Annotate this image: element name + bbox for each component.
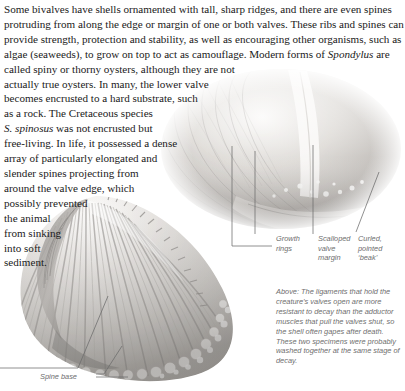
- annotation-curled-beak: Curled, pointed ‘beak’: [358, 234, 402, 263]
- body-line-11: array of particularly elongated and: [4, 151, 259, 166]
- annotation-scalloped-margin: Scalloped valve margin: [318, 234, 358, 263]
- annotation-growth-rings: Growth rings: [276, 234, 316, 253]
- body-line-5: called spiny or thorny oysters, although…: [4, 62, 259, 77]
- body-line-17: into soft: [4, 241, 124, 256]
- article-body: Some bivalves have shells ornamented wit…: [4, 2, 401, 270]
- body-line-13: around the valve edge, which: [4, 181, 184, 196]
- body-line-18: sediment.: [4, 255, 124, 270]
- body-line-14: possibly prevented: [4, 196, 124, 211]
- body-line-6: actually true oysters. In many, the lowe…: [4, 77, 259, 92]
- annotation-spine-base: Spine base: [40, 372, 100, 382]
- body-line-9: S. spinosus was not encrusted but: [4, 121, 259, 136]
- body-line-9-tail: was not encrusted but: [53, 122, 152, 134]
- figure-caption: Above: The ligaments that hold the creat…: [276, 287, 402, 366]
- body-line-7: becomes encrusted to a hard substrate, s…: [4, 91, 259, 106]
- body-line-1: Some bivalves have shells ornamented wit…: [4, 2, 401, 17]
- body-line-12: slender spines projecting from: [4, 166, 184, 181]
- caption-body: The ligaments that hold the creature’s v…: [276, 287, 400, 365]
- body-line-2: protruding from along the edge or margin…: [4, 17, 401, 32]
- genus-name-spondylus: Spondylus: [328, 48, 374, 60]
- body-line-4-tail: are: [373, 48, 389, 60]
- body-line-4-text: algae (seaweeds), to grow on top to act …: [4, 48, 328, 60]
- leader-spine-base-b: [96, 346, 122, 374]
- species-name-spinosus: spinosus: [15, 122, 53, 134]
- page-root: Some bivalves have shells ornamented wit…: [0, 0, 405, 391]
- leader-spine-base-a: [0, 296, 108, 368]
- body-line-10: free-living. In life, it possessed a den…: [4, 136, 259, 151]
- caption-lead-in: Above:: [276, 287, 299, 296]
- body-line-8: as a rock. The Cretaceous species: [4, 106, 259, 121]
- body-line-4: algae (seaweeds), to grow on top to act …: [4, 47, 401, 62]
- body-line-16: from sinking: [4, 226, 124, 241]
- body-line-3: provide strength, protection and stabili…: [4, 32, 401, 47]
- species-abbrev: S.: [4, 122, 15, 134]
- body-line-15: the animal: [4, 211, 124, 226]
